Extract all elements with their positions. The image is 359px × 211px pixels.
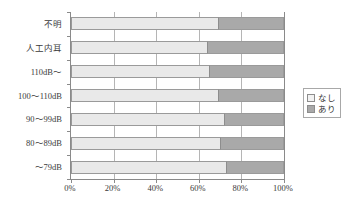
y-axis-label: 90～99dB	[26, 114, 62, 124]
chart-legend: なしあり	[303, 88, 341, 118]
y-axis-label: 人工内耳	[26, 43, 62, 53]
y-tick-0	[67, 12, 71, 13]
bar-segment-あり	[226, 161, 284, 174]
legend-swatch-icon	[307, 94, 315, 102]
bar-segment-あり	[218, 17, 284, 30]
bar-segment-なし	[71, 161, 226, 174]
bar-segment-なし	[71, 41, 207, 54]
bar-row	[71, 89, 284, 102]
y-tick-6	[67, 155, 71, 156]
bar-segment-あり	[207, 41, 284, 54]
bar-segment-なし	[71, 137, 220, 150]
y-axis-label: ～79dB	[35, 162, 62, 172]
y-tick-5	[67, 131, 71, 132]
bar-segment-あり	[209, 65, 284, 78]
y-tick-4	[67, 107, 71, 108]
legend-item[interactable]: なし	[307, 92, 336, 103]
y-axis-labels: 不明人工内耳110dB～100～110dB90～99dB80～89dB～79dB	[0, 12, 66, 179]
bar-row	[71, 65, 284, 78]
bar-row	[71, 17, 284, 30]
y-tick-3	[67, 84, 71, 85]
bar-segment-なし	[71, 17, 218, 30]
y-tick-7	[67, 179, 71, 180]
stacked-bar-chart: 不明人工内耳110dB～100～110dB90～99dB80～89dB～79dB…	[0, 0, 359, 211]
y-axis-label: 不明	[44, 19, 62, 29]
y-tick-2	[67, 60, 71, 61]
legend-swatch-icon	[307, 105, 315, 113]
bar-row	[71, 113, 284, 126]
x-axis-label: 20%	[105, 183, 121, 194]
bar-segment-なし	[71, 89, 218, 102]
x-axis-label: 40%	[147, 183, 163, 194]
gridline-100	[284, 12, 285, 179]
bar-row	[71, 41, 284, 54]
x-axis-labels: 0%20%40%60%80%100%	[70, 183, 283, 197]
bar-row	[71, 161, 284, 174]
bar-row	[71, 137, 284, 150]
legend-item[interactable]: あり	[307, 103, 336, 114]
bar-segment-あり	[220, 137, 284, 150]
plot-area	[70, 12, 284, 180]
y-axis-label: 80～89dB	[26, 138, 62, 148]
y-axis-label: 100～110dB	[18, 91, 62, 101]
x-axis-label: 100%	[273, 183, 293, 194]
bar-segment-なし	[71, 65, 209, 78]
x-axis-label: 80%	[233, 183, 249, 194]
bar-segment-なし	[71, 113, 224, 126]
legend-label: あり	[318, 104, 336, 114]
x-axis-label: 0%	[64, 183, 75, 194]
y-axis-label: 110dB～	[31, 67, 62, 77]
bar-segment-あり	[218, 89, 284, 102]
y-tick-1	[67, 36, 71, 37]
x-axis-label: 60%	[190, 183, 206, 194]
legend-label: なし	[318, 93, 336, 103]
bar-segment-あり	[224, 113, 284, 126]
